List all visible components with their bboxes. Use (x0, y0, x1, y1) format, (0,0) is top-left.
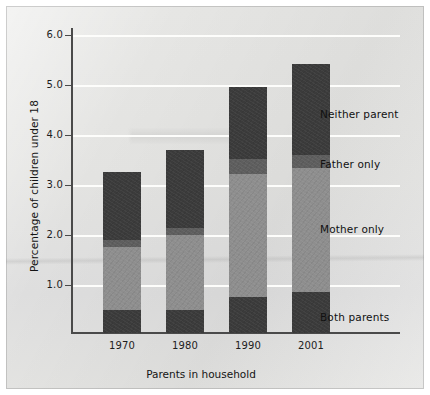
bar-1970-segment-both-parents (103, 310, 141, 333)
bar-1990-segment-neither-parent (229, 87, 267, 159)
bar-1980-segment-both-parents (166, 310, 204, 333)
gridline-6 (72, 35, 400, 37)
x-tick-label-1970: 1970 (92, 340, 152, 351)
y-tick-label-6: 6.0 (23, 29, 63, 40)
x-tick-label-1980: 1980 (155, 340, 215, 351)
y-axis-title: Percentage of children under 18 (28, 86, 40, 286)
y-tick-mark-1 (65, 285, 72, 286)
x-axis-title: Parents in household (71, 368, 331, 380)
bar-1970-segment-father-only (103, 240, 141, 247)
bar-1990-segment-father-only (229, 159, 267, 174)
bar-1980-segment-neither-parent (166, 150, 204, 228)
bar-1980-segment-mother-only (166, 235, 204, 310)
legend-label-father-only: Father only (320, 158, 380, 170)
legend-label-mother-only: Mother only (320, 223, 384, 235)
y-axis-line (71, 28, 73, 334)
y-tick-mark-5 (65, 85, 72, 86)
bar-1980-segment-father-only (166, 228, 204, 235)
bar-1970-segment-neither-parent (103, 172, 141, 240)
stacked-bar-chart-figure: 6.0 5.0 4.0 3.0 2.0 1.0 Percentage of ch… (0, 0, 430, 395)
y-tick-mark-6 (65, 35, 72, 36)
x-tick-label-2001: 2001 (281, 340, 341, 351)
plot-area: 6.0 5.0 4.0 3.0 2.0 1.0 Percentage of ch… (0, 0, 430, 395)
legend-label-both-parents: Both parents (320, 311, 389, 323)
bar-1970-segment-mother-only (103, 247, 141, 310)
y-tick-mark-4 (65, 135, 72, 136)
bar-1990-segment-mother-only (229, 174, 267, 297)
x-tick-label-1990: 1990 (218, 340, 278, 351)
legend-label-neither-parent: Neither parent (320, 108, 399, 120)
bar-1990-segment-both-parents (229, 297, 267, 333)
y-tick-mark-2 (65, 235, 72, 236)
y-tick-mark-3 (65, 185, 72, 186)
